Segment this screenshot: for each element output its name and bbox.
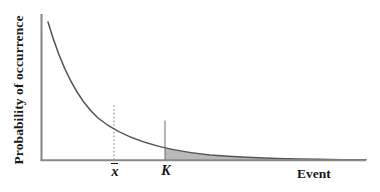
tick-label-mean: x bbox=[104, 163, 126, 180]
probability-distribution-chart: Probability of occurrence x K Event bbox=[0, 0, 380, 192]
density-curve bbox=[48, 22, 366, 160]
tick-label-mean-text: x bbox=[112, 163, 119, 180]
shaded-tail-region bbox=[165, 20, 366, 160]
tick-label-threshold: K bbox=[155, 163, 177, 179]
plot-area bbox=[0, 0, 380, 192]
x-axis-label: Event bbox=[297, 166, 331, 182]
